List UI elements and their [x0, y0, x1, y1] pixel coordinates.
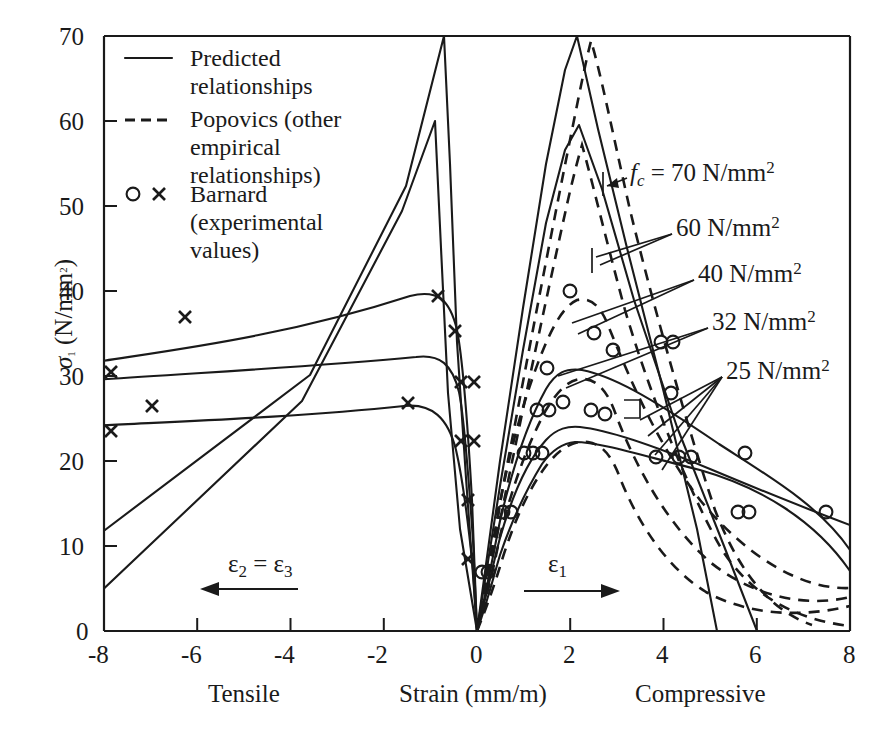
epsilon-axial-label: ε1 — [548, 551, 567, 580]
annotation-fc-70-sup: 2 — [766, 158, 775, 177]
legend-item-predicted: Predicted relationships — [190, 44, 313, 100]
y-axis-unit-close: ) — [50, 259, 77, 267]
y-axis-ticks — [104, 36, 117, 631]
annotation-fc-60: 60 N/mm2 — [676, 214, 780, 240]
y-tick-label-20: 20 — [59, 449, 84, 474]
annotation-fc-40-sup: 2 — [793, 259, 802, 278]
y-axis-sigma-sub: 1 — [65, 351, 77, 356]
annotation-fc-32: 32 N/mm2 — [712, 308, 816, 334]
annotation-fc-40-text: 40 N/mm — [698, 260, 793, 287]
annotation-fc-70-text: = 70 N/mm — [645, 159, 767, 186]
annotation-fc-70: fc = 70 N/mm2 — [630, 159, 775, 189]
legend-item-barnard: Barnard (experimental values) — [190, 180, 323, 264]
y-axis-title: σ1 (N/mm2) — [50, 214, 78, 414]
x-axis-title: Strain (mm/m) — [399, 681, 547, 706]
eps2-symbol: ε — [228, 550, 239, 577]
x-tick-label-0: 0 — [470, 642, 483, 667]
eps3-sub: 3 — [284, 562, 293, 581]
annotation-fc-40: 40 N/mm2 — [698, 260, 802, 286]
fc-sub: c — [637, 171, 645, 190]
annotation-fc-25-sup: 2 — [821, 356, 830, 375]
y-tick-label-70: 70 — [59, 24, 84, 49]
experimental-x-markers — [105, 290, 480, 565]
x-tick-label-2: 2 — [563, 642, 576, 667]
fc-symbol: f — [630, 159, 637, 186]
eps1-symbol: ε — [548, 550, 559, 577]
legend-x-mark — [153, 188, 165, 200]
y-tick-label-60: 60 — [59, 109, 84, 134]
y-tick-label-0: 0 — [76, 619, 89, 644]
x-tick-label-8: 8 — [843, 642, 856, 667]
eps1-sub: 1 — [559, 562, 568, 581]
eps2-sub: 2 — [239, 562, 248, 581]
annotation-fc-25: 25 N/mm2 — [726, 357, 830, 383]
annotation-fc-25-text: 25 N/mm — [726, 357, 821, 384]
region-label-tensile: Tensile — [208, 681, 280, 706]
x-tick-label--6: -6 — [181, 642, 202, 667]
annotation-fc-60-text: 60 N/mm — [676, 214, 771, 241]
y-axis-unit-sup: 2 — [57, 267, 69, 272]
x-tick-label-4: 4 — [656, 642, 669, 667]
epsilon-lateral-label: ε2 = ε3 — [228, 551, 293, 580]
x-tick-label-6: 6 — [749, 642, 762, 667]
x-tick-label--4: -4 — [274, 642, 295, 667]
x-tick-label--2: -2 — [367, 642, 388, 667]
legend-marks — [125, 58, 172, 200]
y-axis-unit-open: (N/mm — [50, 273, 77, 351]
annotation-fc-32-sup: 2 — [807, 307, 816, 326]
region-label-compressive: Compressive — [635, 681, 766, 706]
stress-strain-figure: 70 60 50 40 30 20 10 0 -8 -6 -4 -2 0 2 4… — [0, 0, 893, 736]
y-tick-label-10: 10 — [59, 534, 84, 559]
eps-equals: = ε — [247, 550, 284, 577]
x-tick-label--8: -8 — [88, 642, 109, 667]
legend-item-popovics: Popovics (other empirical relationships) — [190, 105, 341, 189]
annotation-fc-60-sup: 2 — [771, 213, 780, 232]
y-axis-sigma: σ — [50, 357, 77, 369]
annotation-fc-32-text: 32 N/mm — [712, 308, 807, 335]
strain-direction-arrows — [200, 582, 620, 598]
